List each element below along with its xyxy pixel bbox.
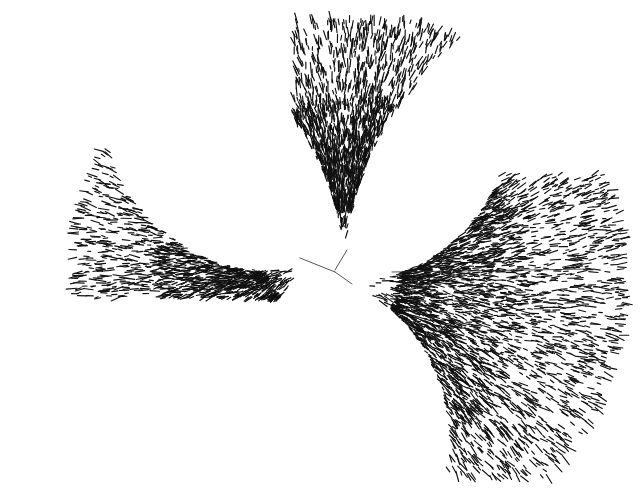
phylogenetic-tree-canvas [0, 0, 644, 499]
figure-root [0, 0, 644, 499]
